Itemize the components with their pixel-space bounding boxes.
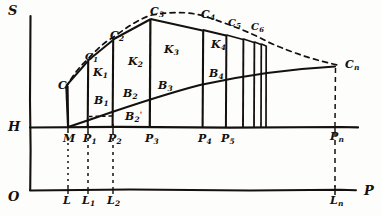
p-axis-line: [30, 190, 356, 191]
b-label-4: B4: [209, 68, 224, 81]
step-top-6: [244, 39, 255, 43]
h-tick-label-p4: P4: [198, 133, 212, 146]
s-axis-line: [30, 16, 31, 190]
step-top-label-c1: C1: [85, 52, 98, 64]
axis-label-o: O: [8, 190, 19, 203]
step-vertical-P5: [226, 35, 227, 128]
k-label-1: K1: [93, 67, 108, 80]
step-top-label-c2: C2: [110, 30, 124, 43]
k-label-4: K4: [211, 39, 226, 52]
step-top-label-cn: Cn: [345, 59, 359, 72]
figure-canvas: S H O P M P1 P2 P3 P4 P5 Pn L L1 L2 Ln C…: [0, 0, 381, 216]
base-tick-label-l: L: [63, 195, 71, 206]
step-top-8: [262, 44, 267, 46]
h-tick-label-p2: P2: [108, 133, 122, 146]
axis-label-h: H: [8, 120, 20, 133]
step-top-label-c4: C4: [201, 9, 215, 22]
step-top-5: [227, 35, 244, 40]
h-tick-label-p1: P1: [83, 133, 97, 146]
b-label-3: B3: [158, 80, 173, 93]
step-top-7: [255, 42, 262, 45]
step-vertical-P1: [88, 60, 89, 127]
h-tick-label-p3: P3: [145, 133, 159, 146]
step-top-0: [66, 62, 88, 87]
b-label-1: B1: [94, 95, 109, 108]
b-label-2-prime: B2': [125, 111, 142, 124]
h-axis-line: [30, 127, 358, 128]
k-label-3: K3: [164, 44, 179, 57]
step-vertical-P3: [150, 19, 151, 128]
step-top-label-c3: C3: [150, 6, 164, 19]
h-tick-label-m: M: [63, 133, 75, 144]
base-tick-label-l2: L2: [107, 195, 120, 208]
step-vertical-P4: [203, 30, 204, 128]
h-tick-label-pn: Pn: [330, 131, 344, 144]
step-vertical-P2: [113, 39, 114, 128]
dashed-drop-Cn-to-Pn: [335, 68, 336, 124]
b-label-2: B2: [123, 88, 138, 101]
step-top-3: [151, 19, 203, 31]
base-tick-label-ln: Ln: [330, 195, 343, 208]
step-top-label-c5: C5: [228, 18, 241, 30]
axis-label-s: S: [8, 4, 17, 17]
step-top-label-c: C: [58, 80, 67, 91]
base-tick-label-l1: L1: [82, 195, 95, 208]
axis-label-p: P: [364, 184, 374, 197]
h-tick-label-p5: P5: [221, 133, 235, 146]
step-top-label-c6: C6: [251, 22, 264, 34]
step-top-4: [203, 30, 226, 36]
axis-group: [30, 16, 358, 190]
diagram-svg: [0, 0, 381, 216]
k-label-2: K2: [128, 56, 143, 69]
